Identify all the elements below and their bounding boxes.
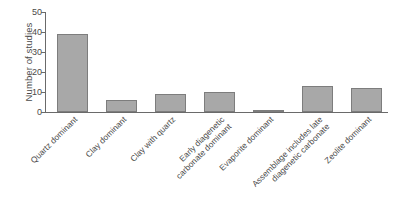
x-tick-label: Clay dominant [37,115,129,207]
bars-layer [45,12,388,112]
y-axis-tick-labels: 01020304050 [24,0,42,218]
y-tick-label-10: 10 [26,88,42,97]
y-tick-mark-20 [41,72,45,73]
x-tick-label-line: Clay with quartz [127,114,176,163]
x-tick-label-line: Clay dominant [83,114,128,159]
bar [106,100,137,112]
y-tick-label-30: 30 [26,48,42,57]
bar [155,94,186,112]
x-tick-label-line: Zeolite dominant [322,114,373,165]
bar-chart: Number of studies 01020304050 Quartz dom… [0,0,398,218]
bar [253,110,284,112]
y-tick-label-40: 40 [26,28,42,37]
bar [204,92,235,112]
y-tick-mark-10 [41,92,45,93]
x-axis-category-labels: Quartz dominantClay dominantClay with qu… [45,113,398,218]
y-tick-label-20: 20 [26,68,42,77]
plot-area [45,12,388,112]
y-tick-mark-30 [41,52,45,53]
bar [57,34,88,112]
y-tick-mark-50 [41,12,45,13]
y-tick-label-50: 50 [26,8,42,17]
bar [351,88,382,112]
y-tick-label-0: 0 [26,108,42,117]
y-tick-mark-40 [41,32,45,33]
bar [302,86,333,112]
